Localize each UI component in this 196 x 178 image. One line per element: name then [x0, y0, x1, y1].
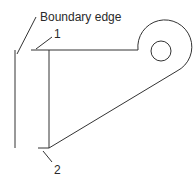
bracket-diagram: Boundary edge 1 2 — [0, 0, 196, 178]
point-1-label: 1 — [54, 27, 61, 41]
lug-outer-arc — [138, 20, 192, 71]
hole-circle — [151, 41, 171, 61]
point-1-leader — [36, 37, 52, 49]
point-2-leader — [43, 151, 52, 162]
point-2-label: 2 — [54, 163, 61, 177]
boundary-edge-leader — [17, 17, 36, 54]
diagonal-edge — [49, 71, 177, 148]
boundary-edge-label: Boundary edge — [40, 10, 122, 24]
